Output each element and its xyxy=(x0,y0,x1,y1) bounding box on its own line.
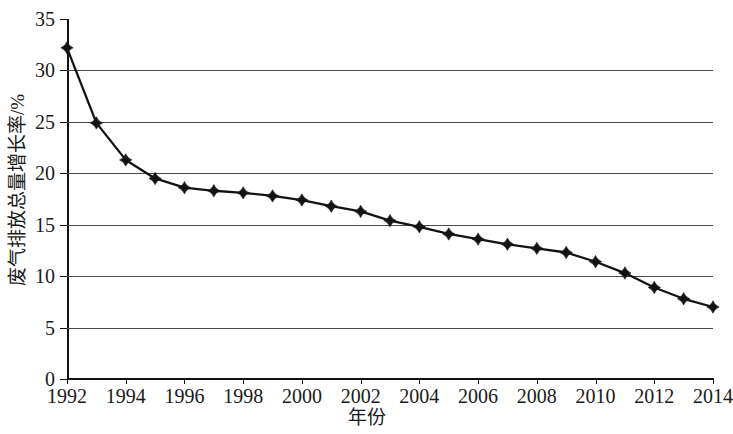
y-tick-mark xyxy=(60,122,67,123)
x-tick-mark xyxy=(478,378,479,384)
x-tick-label: 1996 xyxy=(164,386,204,406)
x-tick-mark xyxy=(302,378,303,384)
x-tick-label: 2002 xyxy=(341,386,381,406)
x-tick-mark xyxy=(361,378,362,384)
x-tick-label: 1998 xyxy=(223,386,263,406)
x-tick-mark xyxy=(654,378,655,384)
x-tick-mark xyxy=(596,378,597,384)
gridline xyxy=(67,225,713,226)
x-tick-label: 1994 xyxy=(106,386,146,406)
x-tick-mark xyxy=(419,378,420,384)
y-tick-mark xyxy=(60,328,67,329)
gridline xyxy=(67,122,713,123)
x-tick-mark xyxy=(537,378,538,384)
x-tick-label: 2012 xyxy=(634,386,674,406)
y-tick-label: 5 xyxy=(9,318,55,338)
x-tick-mark xyxy=(184,378,185,384)
y-tick-mark xyxy=(60,225,67,226)
x-tick-label: 2008 xyxy=(517,386,557,406)
y-tick-label: 10 xyxy=(9,266,55,286)
gridline xyxy=(67,173,713,174)
y-tick-mark xyxy=(60,19,67,20)
x-tick-label: 2000 xyxy=(282,386,322,406)
y-tick-label: 25 xyxy=(9,112,55,132)
y-tick-label: 20 xyxy=(9,163,55,183)
x-axis-title: 年份 xyxy=(0,408,733,429)
x-tick-label: 1992 xyxy=(47,386,87,406)
x-tick-label: 2006 xyxy=(458,386,498,406)
x-tick-mark xyxy=(243,378,244,384)
x-tick-label: 2004 xyxy=(399,386,439,406)
x-tick-mark xyxy=(713,378,714,384)
gridline xyxy=(67,276,713,277)
x-tick-label: 2014 xyxy=(693,386,733,406)
gridline xyxy=(67,328,713,329)
x-tick-label: 2010 xyxy=(576,386,616,406)
x-tick-mark xyxy=(67,378,68,384)
line-chart: 废气排放总量增长率/% 05101520253035 1992199419961… xyxy=(0,0,733,434)
gridline xyxy=(67,70,713,71)
x-tick-mark xyxy=(126,378,127,384)
y-tick-mark xyxy=(60,173,67,174)
y-tick-label: 30 xyxy=(9,60,55,80)
y-tick-mark xyxy=(60,70,67,71)
y-tick-label: 35 xyxy=(9,9,55,29)
y-tick-mark xyxy=(60,379,67,380)
y-tick-mark xyxy=(60,276,67,277)
y-tick-label: 15 xyxy=(9,215,55,235)
plot-area xyxy=(67,19,713,379)
